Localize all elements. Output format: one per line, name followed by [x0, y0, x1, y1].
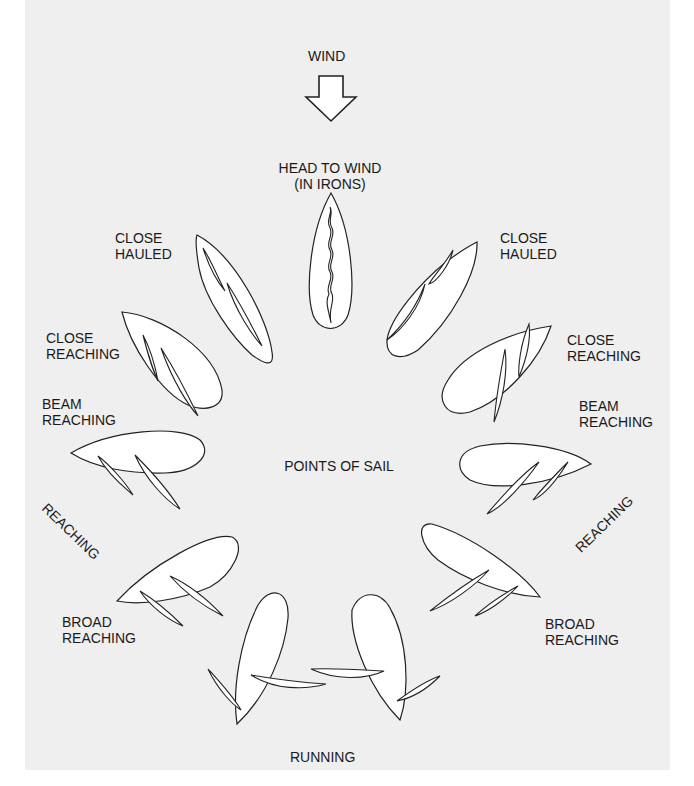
boat-broad-reaching-right	[422, 524, 540, 616]
boat-beam-reaching-right	[460, 444, 591, 514]
label-close-reaching-left: CLOSE REACHING	[46, 330, 120, 362]
boat-close-reaching-left	[122, 312, 222, 416]
label-close-hauled-right: CLOSE HAULED	[500, 230, 557, 262]
boat-broad-reaching-left	[117, 536, 238, 626]
boat-head-to-wind	[309, 193, 351, 329]
boat-close-reaching-right	[442, 324, 551, 422]
label-beam-reaching-right: BEAM REACHING	[579, 398, 653, 430]
label-beam-reaching-left: BEAM REACHING	[42, 396, 116, 428]
boat-beam-reaching-left	[71, 431, 205, 509]
diagram-title: POINTS OF SAIL	[254, 458, 424, 474]
boat-running-left	[208, 593, 326, 724]
label-head-to-wind: HEAD TO WIND (IN IRONS)	[276, 160, 384, 192]
label-broad-reaching-left: BROAD REACHING	[62, 614, 136, 646]
wind-label: WIND	[308, 48, 345, 64]
wind-arrow-icon	[306, 76, 356, 121]
boat-running-right	[311, 595, 440, 720]
label-running: RUNNING	[290, 749, 355, 765]
boat-close-hauled-left	[196, 235, 272, 363]
boat-close-hauled-right	[387, 242, 477, 357]
label-close-hauled-left: CLOSE HAULED	[115, 230, 172, 262]
label-close-reaching-right: CLOSE REACHING	[567, 332, 641, 364]
label-broad-reaching-right: BROAD REACHING	[545, 616, 619, 648]
points-of-sail-diagram	[0, 0, 694, 786]
